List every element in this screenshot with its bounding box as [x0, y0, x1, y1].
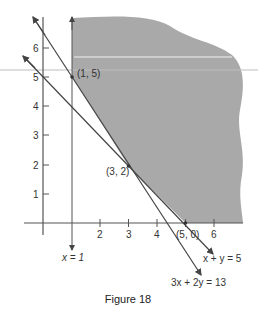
- y-tick-label: 5: [33, 72, 39, 83]
- line-x-plus-y-top-arrow: [23, 56, 35, 68]
- figure-caption: Figure 18: [105, 293, 151, 305]
- point-label-5-0: (5, 0): [176, 229, 199, 240]
- linear-programming-figure: 2 3 4 6 1 2 3 4 5 6 (1, 5) (: [0, 0, 258, 320]
- x-tick-label: 3: [126, 229, 132, 240]
- y-tick-label: 4: [33, 101, 39, 112]
- corner-point-5-0: [184, 221, 188, 225]
- feasible-region: [72, 16, 243, 223]
- y-tick-label: 2: [33, 160, 39, 171]
- label-3x-plus-2y-equals-13: 3x + 2y = 13: [171, 277, 226, 288]
- x-tick-label: 4: [154, 229, 160, 240]
- x-tick-label: 6: [211, 229, 217, 240]
- y-tick-label: 1: [33, 189, 39, 200]
- corner-point-1-5: [70, 75, 74, 79]
- x-tick-label: 2: [97, 229, 103, 240]
- y-tick-label: 6: [33, 43, 39, 54]
- label-x-plus-y-equals-5: x + y = 5: [203, 253, 242, 264]
- point-label-1-5: (1, 5): [77, 68, 100, 79]
- y-tick-label: 3: [33, 130, 39, 141]
- label-x-equals-1: x = 1: [61, 252, 84, 263]
- point-label-3-2: (3, 2): [106, 166, 129, 177]
